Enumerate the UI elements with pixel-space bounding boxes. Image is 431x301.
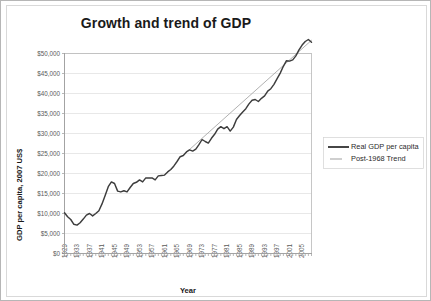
chart-legend: Real GDP per capita Post-1968 Trend: [324, 138, 424, 169]
legend-label-post-1968-trend: Post-1968 Trend: [351, 154, 406, 163]
x-tick-label: 1969: [186, 243, 193, 258]
x-tick-label: 1989: [248, 243, 255, 258]
x-tick-label: 1997: [273, 243, 280, 258]
legend-label-real-gdp-per-capita: Real GDP per capita: [351, 142, 420, 151]
y-tick-label: $15,000: [37, 190, 60, 197]
x-axis-title: Year: [180, 286, 196, 295]
x-tick-label: 2005: [298, 243, 305, 258]
x-tick-label: 1933: [73, 243, 80, 258]
x-tick-label: 1945: [111, 243, 118, 258]
x-tick-label: 1941: [98, 243, 105, 258]
x-tick-label: 1961: [161, 243, 168, 258]
chart-outer-frame: Growth and trend of GDP $0$5,000$10,000$…: [0, 0, 431, 301]
series-line-post-1968-trend: [186, 40, 311, 152]
x-tick-label: 1953: [136, 243, 143, 258]
y-tick-label: $40,000: [37, 90, 60, 97]
y-tick-label: $30,000: [37, 130, 60, 137]
x-tick-label: 1965: [173, 243, 180, 258]
x-tick-label: 1949: [123, 243, 130, 258]
x-tick-label: 1937: [86, 243, 93, 258]
x-tick-label: 1993: [261, 243, 268, 258]
y-tick-label: $45,000: [37, 70, 60, 77]
x-tick-label: 2001: [286, 243, 293, 258]
y-tick-label: $5,000: [41, 230, 61, 237]
y-tick-label: $35,000: [37, 110, 60, 117]
x-tick-label: 1957: [148, 243, 155, 258]
chart-plot-area: $0$5,000$10,000$15,000$20,000$25,000$30,…: [1, 1, 431, 301]
x-tick-label: 1973: [198, 243, 205, 258]
x-axis-ticks: 1929193319371941194519491953195719611965…: [61, 243, 312, 258]
y-tick-label: $10,000: [37, 210, 60, 217]
y-axis-ticks: $0$5,000$10,000$15,000$20,000$25,000$30,…: [37, 50, 64, 257]
y-tick-label: $50,000: [37, 50, 60, 57]
y-tick-label: $20,000: [37, 170, 60, 177]
x-tick-label: 1981: [223, 243, 230, 258]
y-axis-title: GDP per capita, 2007 US$: [15, 148, 24, 241]
x-tick-label: 1977: [211, 243, 218, 258]
y-tick-label: $0: [53, 250, 61, 257]
y-tick-label: $25,000: [37, 150, 60, 157]
series-line-real-gdp-per-capita: [65, 40, 312, 226]
x-tick-label: 1985: [236, 243, 243, 258]
